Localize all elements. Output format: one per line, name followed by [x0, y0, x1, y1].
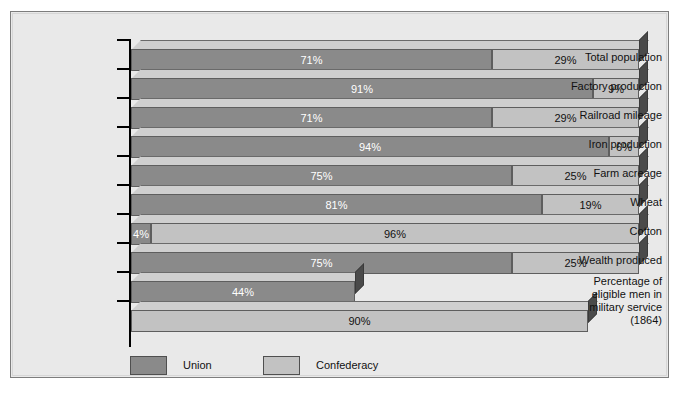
bar-segment-union: 71%: [131, 49, 492, 71]
category-label-line: military service: [589, 301, 662, 314]
axis-tick: [117, 155, 130, 157]
bar-value-label: 81%: [325, 199, 347, 211]
legend-swatch-confederacy[interactable]: [263, 356, 300, 375]
category-label: Factory production: [556, 75, 668, 97]
axis-tick: [117, 213, 130, 215]
axis-tick: [117, 300, 130, 302]
axis-tick: [117, 126, 130, 128]
bar-value-label: 71%: [300, 112, 322, 124]
category-label: Total population: [556, 46, 668, 68]
axis-tick: [117, 39, 130, 41]
chart-frame: 71%29%Total population91%9%Factory produ…: [10, 11, 669, 378]
bar-segment-union: 94%: [131, 136, 609, 158]
axis-tick: [117, 271, 130, 273]
category-label: Wealth produced: [556, 249, 668, 271]
category-label: Farm acreage: [556, 162, 668, 184]
bar-segment-confederacy: 90%: [131, 310, 588, 332]
category-label: Railroad mileage: [556, 104, 668, 126]
axis-tick: [117, 68, 130, 70]
axis-tick: [117, 97, 130, 99]
category-label: Iron production: [556, 133, 668, 155]
bar-value-label: 90%: [348, 315, 370, 327]
bar-segment-union: 44%: [131, 281, 355, 303]
bar-value-label: 94%: [359, 141, 381, 153]
bar-value-label: 44%: [232, 286, 254, 298]
bar-segment-union: 91%: [131, 78, 593, 100]
category-label-line: Percentage of: [594, 275, 663, 288]
legend-swatch-union[interactable]: [130, 356, 167, 375]
bar-value-label: 75%: [310, 257, 332, 269]
category-label: Cotton: [556, 220, 668, 242]
bar-segment-union: 4%: [131, 223, 151, 245]
chart-plot-area: 71%29%Total population91%9%Factory produ…: [11, 12, 668, 377]
bar-segment-union: 75%: [131, 252, 512, 274]
axis-tick: [117, 184, 130, 186]
legend-label-confederacy: Confederacy: [316, 356, 378, 375]
bar-segment-union: 81%: [131, 194, 542, 216]
bar-segment-union: 75%: [131, 165, 512, 187]
axis-tick: [117, 242, 130, 244]
bar-value-label: 75%: [310, 170, 332, 182]
category-label-line: eligible men in: [592, 288, 662, 301]
bar-segment-union: 71%: [131, 107, 492, 129]
category-label: Wheat: [556, 191, 668, 213]
bar-value-label: 71%: [300, 54, 322, 66]
bar-value-label: 96%: [384, 228, 406, 240]
bar-value-label: 4%: [133, 228, 149, 240]
bar-value-label: 91%: [351, 83, 373, 95]
category-label-military-service: Percentage ofeligible men inmilitary ser…: [556, 275, 668, 326]
legend-label-union: Union: [183, 356, 212, 375]
category-label-line: (1864): [630, 314, 662, 327]
